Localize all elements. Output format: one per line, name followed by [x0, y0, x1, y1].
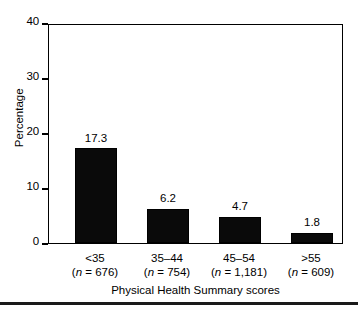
y-tick-label-0: 0	[33, 236, 39, 248]
x-axis-title: Physical Health Summary scores	[48, 284, 343, 296]
bar-0	[75, 148, 117, 243]
bar-group-2: 4.7	[209, 25, 271, 243]
x-category-main-3: >55	[265, 252, 357, 266]
figure-divider-rule	[0, 302, 358, 305]
x-category-label-3: >55 (n = 609)	[265, 252, 357, 279]
bar-value-label-2: 4.7	[209, 201, 271, 213]
bar-value-label-0: 17.3	[65, 133, 127, 145]
y-tick-label-40: 40	[26, 16, 39, 28]
bar-value-label-3: 1.8	[281, 217, 343, 229]
y-tick-label-30: 30	[26, 71, 39, 83]
bar-group-1: 6.2	[137, 25, 199, 243]
bar-group-0: 17.3	[65, 25, 127, 243]
bar-value-label-1: 6.2	[137, 193, 199, 205]
y-axis-title: Percentage	[14, 68, 26, 168]
plot-area: 17.3 6.2 4.7 1.8	[48, 24, 343, 244]
bar-group-3: 1.8	[281, 25, 343, 243]
bar-3	[291, 233, 333, 243]
y-tick-label-20: 20	[26, 126, 39, 138]
y-tick-label-10: 10	[26, 181, 39, 193]
x-category-sub-3: (n = 609)	[265, 266, 357, 280]
figure-container: Percentage 40 30 20 10 0 17.3 6.2 4.7	[0, 0, 358, 318]
bar-1	[147, 209, 189, 243]
bar-2	[219, 217, 261, 243]
